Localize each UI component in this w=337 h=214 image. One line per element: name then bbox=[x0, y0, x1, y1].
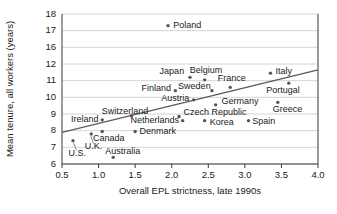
y-axis-title: Mean tenure, all workers (years) bbox=[4, 21, 15, 157]
scatter-chart: 67891011121617180.51.01.52.02.53.03.54.0… bbox=[0, 0, 337, 214]
x-tick-label: 3.5 bbox=[275, 169, 288, 180]
data-point[interactable]: Sweden (2.55, 10.4) bbox=[210, 89, 213, 92]
y-tick-label: 18 bbox=[45, 8, 56, 19]
point-label: Japan bbox=[160, 66, 185, 76]
point-label: Netherlands bbox=[130, 115, 179, 125]
x-tick-label: 1.5 bbox=[129, 169, 142, 180]
point-label: U.K. bbox=[85, 141, 103, 151]
chart-canvas: 67891011121617180.51.01.52.02.53.03.54.0… bbox=[0, 0, 337, 214]
y-tick-label: 9 bbox=[51, 108, 56, 119]
x-tick-label: 3.0 bbox=[238, 169, 251, 180]
data-point[interactable]: U.S. (0.65, 7.4) bbox=[71, 139, 74, 142]
point-label: Sweden bbox=[178, 81, 211, 91]
data-point[interactable]: France (2.8, 10.6) bbox=[229, 86, 232, 89]
trend-line bbox=[62, 70, 318, 132]
y-tick-label: 16 bbox=[45, 41, 56, 52]
data-point[interactable]: Netherlands (2.15, 8.6) bbox=[181, 119, 184, 122]
data-point[interactable]: Spain (3.05, 8.6) bbox=[247, 119, 250, 122]
y-tick-label: 11 bbox=[46, 74, 56, 85]
point-label: Spain bbox=[252, 116, 275, 126]
data-point[interactable]: Denmark (1.5, 7.95) bbox=[133, 130, 136, 133]
point-label: Czech Republic bbox=[183, 107, 247, 117]
y-tick-label: 17 bbox=[45, 24, 56, 35]
point-label: France bbox=[218, 73, 246, 83]
x-tick-label: 1.0 bbox=[92, 169, 105, 180]
data-point[interactable]: Ireland (1.05, 8.65) bbox=[101, 118, 104, 121]
point-label: Greece bbox=[273, 104, 303, 114]
point-label: Austria bbox=[161, 93, 189, 103]
x-tick-label: 2.5 bbox=[202, 169, 215, 180]
y-tick-label: 6 bbox=[51, 158, 56, 169]
point-label: Korea bbox=[210, 117, 234, 127]
point-label: Denmark bbox=[140, 126, 177, 136]
point-label: Portugal bbox=[266, 85, 300, 95]
data-point[interactable]: Italy (3.35, 11.45) bbox=[269, 71, 272, 74]
point-label: Ireland bbox=[71, 114, 99, 124]
point-label: Australia bbox=[105, 146, 140, 156]
x-axis-title: Overall EPL strictness, late 1990s bbox=[119, 185, 261, 196]
point-label: Poland bbox=[173, 20, 201, 30]
data-point[interactable]: Poland (1.95, 17.3) bbox=[166, 24, 169, 27]
x-tick-label: 2.0 bbox=[165, 169, 178, 180]
point-label: Germany bbox=[221, 96, 259, 106]
y-tick-label: 12 bbox=[45, 58, 56, 69]
y-tick-label: 7 bbox=[51, 141, 56, 152]
x-tick-label: 4.0 bbox=[311, 169, 324, 180]
y-tick-label: 10 bbox=[45, 91, 56, 102]
data-point[interactable]: Austria (2.3, 9.85) bbox=[192, 98, 195, 101]
y-tick-label: 8 bbox=[51, 124, 56, 135]
data-point[interactable]: Australia (1.2, 6.4) bbox=[112, 156, 115, 159]
data-point[interactable]: Japan (2.25, 11.2) bbox=[188, 76, 191, 79]
x-tick-label: 0.5 bbox=[55, 169, 68, 180]
point-label: Italy bbox=[276, 66, 293, 76]
data-point[interactable]: Korea (2.45, 8.6) bbox=[203, 119, 206, 122]
point-label: U.S. bbox=[69, 148, 87, 158]
